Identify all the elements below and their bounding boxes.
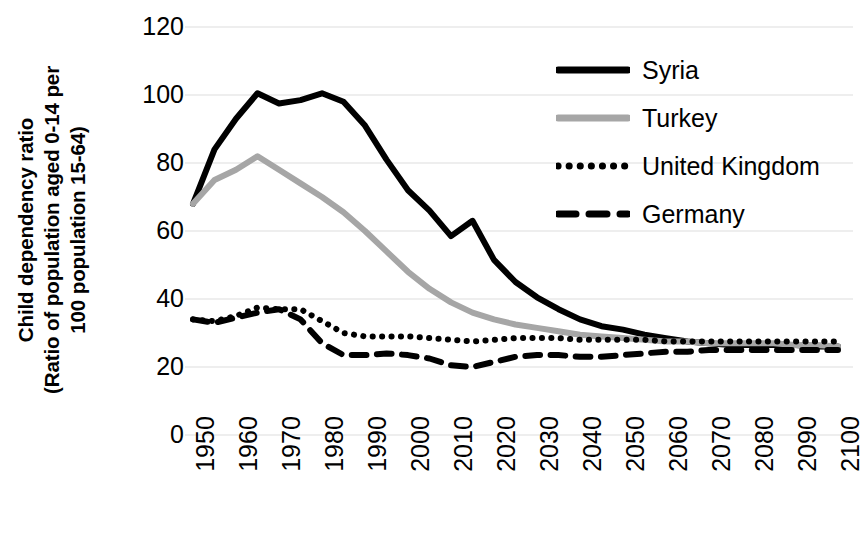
legend-item-turkey[interactable]: Turkey — [556, 94, 856, 142]
x-tick-label-2010: 2010 — [439, 440, 463, 540]
y-tick-label-80: 80 — [114, 150, 184, 175]
x-axis-tick-labels: 1950196019701980199020002010202020302040… — [185, 440, 853, 552]
x-tick-label-text: 2050 — [623, 416, 647, 472]
legend-swatch-dashed-line-icon — [556, 205, 630, 223]
x-tick-label-text: 2070 — [709, 416, 733, 472]
x-tick-label-2040: 2040 — [568, 440, 592, 540]
x-tick-label-1970: 1970 — [267, 440, 291, 540]
legend-item-syria[interactable]: Syria — [556, 46, 856, 94]
y-tick-label-60: 60 — [114, 218, 184, 243]
y-tick-label-120: 120 — [114, 14, 184, 39]
x-tick-label-text: 1970 — [279, 416, 303, 472]
legend-swatch-dotted-line-icon — [556, 157, 630, 175]
x-tick-label-2050: 2050 — [611, 440, 635, 540]
x-tick-label-text: 1980 — [322, 416, 346, 472]
x-tick-label-text: 2100 — [838, 416, 862, 472]
legend-item-germany[interactable]: Germany — [556, 190, 856, 238]
x-tick-label-2080: 2080 — [740, 440, 764, 540]
y-tick-label-20: 20 — [114, 354, 184, 379]
x-tick-label-text: 1960 — [236, 416, 260, 472]
x-tick-label-text: 2040 — [580, 416, 604, 472]
x-tick-label-text: 2060 — [666, 416, 690, 472]
x-tick-label-2060: 2060 — [654, 440, 678, 540]
y-axis-title-line-3: 100 population 15-64) — [65, 66, 91, 394]
chart-legend: SyriaTurkeyUnited KingdomGermany — [556, 46, 856, 238]
x-tick-label-text: 2090 — [795, 416, 819, 472]
x-tick-label-text: 1990 — [365, 416, 389, 472]
y-axis-title-line-1: Child dependency ratio — [13, 66, 39, 394]
x-tick-label-1980: 1980 — [310, 440, 334, 540]
y-tick-label-0: 0 — [114, 422, 184, 447]
y-axis-title: Child dependency ratio (Ratio of populat… — [0, 0, 104, 460]
x-tick-label-2070: 2070 — [697, 440, 721, 540]
x-tick-label-2030: 2030 — [525, 440, 549, 540]
x-tick-label-text: 2000 — [408, 416, 432, 472]
y-axis-tick-labels: 120100806040200 — [100, 0, 184, 460]
x-tick-label-text: 2020 — [494, 416, 518, 472]
y-axis-title-line-2: (Ratio of population aged 0-14 per — [39, 66, 65, 394]
legend-label: Germany — [642, 202, 745, 227]
y-tick-label-40: 40 — [114, 286, 184, 311]
legend-label: Syria — [642, 58, 699, 83]
x-tick-label-text: 2010 — [451, 416, 475, 472]
legend-swatch-solid-line-icon — [556, 109, 630, 127]
legend-label: Turkey — [642, 106, 717, 131]
legend-swatch-solid-line-icon — [556, 61, 630, 79]
x-tick-label-text: 1950 — [193, 416, 217, 472]
x-tick-label-2020: 2020 — [482, 440, 506, 540]
x-tick-label-text: 2030 — [537, 416, 561, 472]
x-tick-label-text: 2080 — [752, 416, 776, 472]
x-tick-label-2100: 2100 — [826, 440, 850, 540]
y-tick-label-100: 100 — [114, 82, 184, 107]
legend-label: United Kingdom — [642, 154, 820, 179]
x-tick-label-1950: 1950 — [181, 440, 205, 540]
x-tick-label-2090: 2090 — [783, 440, 807, 540]
x-tick-label-1960: 1960 — [224, 440, 248, 540]
chart-figure: Child dependency ratio (Ratio of populat… — [0, 0, 868, 552]
x-tick-label-2000: 2000 — [396, 440, 420, 540]
x-tick-label-1990: 1990 — [353, 440, 377, 540]
legend-item-united-kingdom[interactable]: United Kingdom — [556, 142, 856, 190]
